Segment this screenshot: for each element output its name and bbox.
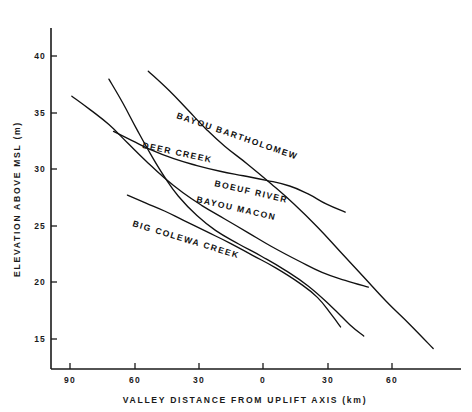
x-tick-label: 60	[386, 375, 398, 385]
curve-label-big-colewa-creek: BIG COLEWA CREEK	[131, 218, 241, 260]
x-tick-label: 60	[129, 375, 141, 385]
y-tick-label: 40	[34, 51, 46, 61]
x-tick-label: 30	[193, 375, 205, 385]
chart-svg: 40 35 30 25 20 15 90 60 30 0 30 60 VALLE…	[0, 0, 472, 412]
x-tick-label: 0	[260, 375, 266, 385]
y-tick-label: 35	[34, 108, 46, 118]
x-axis-ticks	[70, 363, 392, 369]
y-tick-label: 20	[34, 277, 46, 287]
curve-labels: BAYOU BARTHOLOMEW DEER CREEK BOEUF RIVER…	[131, 110, 299, 260]
x-tick-label: 90	[64, 375, 76, 385]
curve-label-deer-creek: DEER CREEK	[142, 140, 214, 165]
y-axis-ticks	[51, 56, 57, 339]
y-tick-label: 30	[34, 164, 46, 174]
x-axis-title: VALLEY DISTANCE FROM UPLIFT AXIS (km)	[123, 395, 368, 405]
y-axis-title: ELEVATION ABOVE MSL (m)	[12, 121, 22, 277]
y-tick-label: 25	[34, 221, 46, 231]
y-tick-label: 15	[34, 334, 46, 344]
curve-big-colewa-creek	[127, 195, 340, 327]
chart-figure: 40 35 30 25 20 15 90 60 30 0 30 60 VALLE…	[0, 0, 472, 412]
x-axis-tick-labels: 90 60 30 0 30 60	[64, 375, 398, 385]
y-axis-tick-labels: 40 35 30 25 20 15	[34, 51, 46, 344]
x-tick-label: 30	[322, 375, 334, 385]
